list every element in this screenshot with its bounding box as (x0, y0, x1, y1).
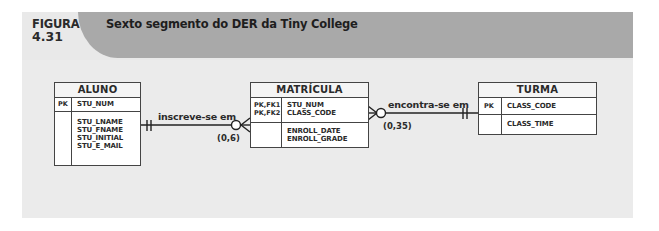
zero-circle-icon (377, 109, 386, 118)
attribute: STU_INITIAL (77, 134, 140, 142)
relationship-label-encontra: encontra-se em (388, 99, 469, 110)
attribute: STU_FNAME (77, 126, 140, 134)
key-attribute-list: STU_NUM (72, 98, 140, 111)
key-attribute: CLASS_CODE (507, 98, 596, 114)
attribute: STU_LNAME (77, 118, 140, 126)
key-column-empty (251, 123, 282, 147)
entity-matricula-attr-row: ENROLL_DATE ENROLL_GRADE (251, 123, 368, 147)
entity-turma-attr-row: CLASS_TIME (479, 115, 596, 134)
attribute: ENROLL_DATE (287, 127, 368, 135)
entity-aluno-key-row: PK STU_NUM (55, 98, 140, 112)
attribute-list: ENROLL_DATE ENROLL_GRADE (282, 123, 368, 147)
key-attribute: STU_NUM (287, 101, 368, 109)
attribute-list: STU_LNAME STU_FNAME STU_INITIAL STU_E_MA… (72, 112, 140, 165)
key-label: PK,FK2 (254, 109, 281, 117)
crows-foot-icon (368, 106, 377, 113)
key-label: PK (55, 98, 72, 111)
key-attribute-list: CLASS_CODE (502, 98, 596, 114)
attribute: STU_E_MAIL (77, 142, 140, 150)
key-attribute-list: STU_NUM CLASS_CODE (282, 98, 368, 122)
relationship-label-inscreve: inscreve-se em (158, 111, 236, 122)
entity-matricula: MATRÍCULA PK,FK1 PK,FK2 STU_NUM CLASS_CO… (250, 82, 369, 148)
attribute-list: CLASS_TIME (502, 115, 596, 134)
key-label: PK,FK1 (254, 101, 281, 109)
key-column-empty (479, 115, 502, 134)
crows-foot-icon (241, 118, 250, 125)
key-attribute: CLASS_CODE (287, 109, 368, 117)
attribute: CLASS_TIME (507, 115, 596, 134)
entity-turma-key-row: PK CLASS_CODE (479, 98, 596, 115)
figure-page: FIGURA 4.31 Sexto segmento do DER da Tin… (0, 0, 659, 231)
key-label: PK (479, 98, 502, 114)
key-column-empty (55, 112, 72, 165)
cardinality-encontra: (0,35) (383, 121, 412, 131)
entity-matricula-key-row: PK,FK1 PK,FK2 STU_NUM CLASS_CODE (251, 98, 368, 123)
entity-aluno: ALUNO PK STU_NUM STU_LNAME STU_FNAME STU… (54, 82, 141, 166)
attribute: ENROLL_GRADE (287, 135, 368, 143)
key-attribute: STU_NUM (77, 98, 140, 111)
entity-turma-name: TURMA (479, 83, 596, 98)
entity-matricula-name: MATRÍCULA (251, 83, 368, 98)
entity-aluno-name: ALUNO (55, 83, 140, 98)
entity-aluno-attr-row: STU_LNAME STU_FNAME STU_INITIAL STU_E_MA… (55, 112, 140, 165)
key-label-list: PK,FK1 PK,FK2 (251, 98, 282, 122)
entity-turma: TURMA PK CLASS_CODE CLASS_TIME (478, 82, 597, 135)
cardinality-inscreve: (0,6) (217, 133, 240, 143)
